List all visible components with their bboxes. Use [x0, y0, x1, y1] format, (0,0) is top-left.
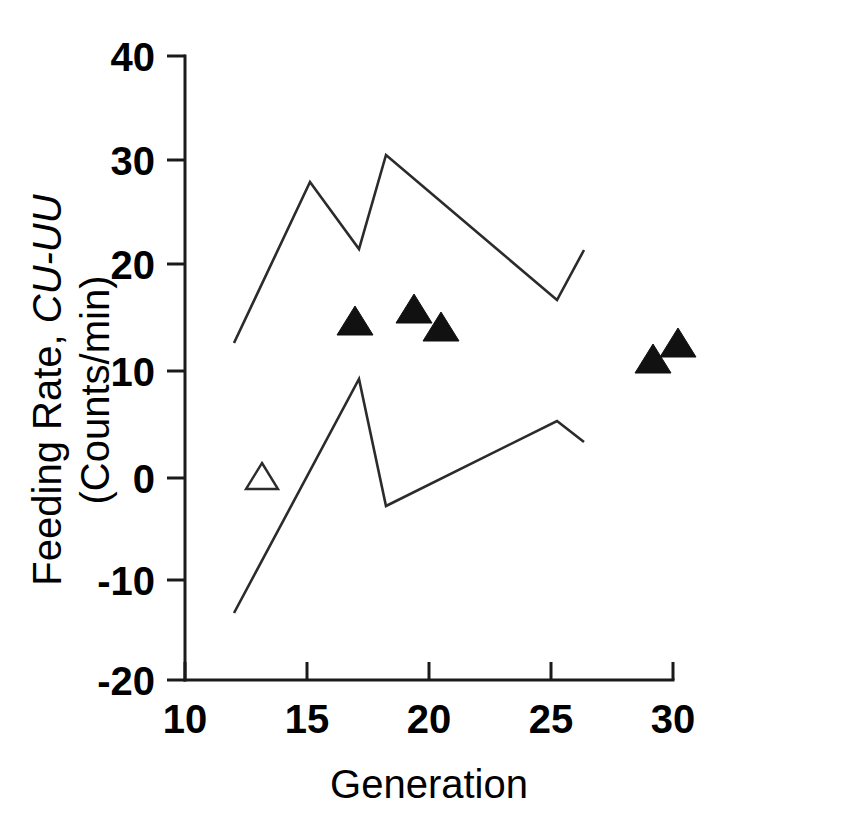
x-axis-tick-labels: 10 15 20 25 30: [163, 697, 696, 741]
x-tick-label-20: 20: [407, 697, 452, 741]
chart-canvas: 40 30 20 10 0 -10 -20 10 15 20 25 30: [0, 0, 852, 815]
marker-filled-triangle-5: [660, 328, 696, 357]
y-axis-ticks: [167, 56, 185, 680]
figure-container: 40 30 20 10 0 -10 -20 10 15 20 25 30: [0, 0, 852, 815]
marker-open-triangle-baseline: [246, 463, 278, 489]
marker-filled-triangle-1: [337, 306, 373, 335]
y-axis-title-line2: (Counts/min): [73, 276, 117, 505]
x-tick-label-10: 10: [163, 697, 208, 741]
y-tick-label--10: -10: [97, 559, 155, 603]
x-axis-title: Generation: [330, 762, 528, 806]
y-tick-label-40: 40: [111, 35, 156, 79]
y-tick-label-10: 10: [111, 350, 156, 394]
axis-titles: Generation Feeding Rate, CU-UU (Counts/m…: [25, 193, 528, 806]
x-tick-label-15: 15: [285, 697, 330, 741]
y-tick-label-0: 0: [133, 457, 155, 501]
y-tick-label-30: 30: [111, 139, 156, 183]
y-axis-title-italic: CU-UU: [25, 193, 69, 323]
y-tick-label-20: 20: [111, 243, 156, 287]
envelope-lines: [234, 155, 584, 613]
y-axis-title-line1: Feeding Rate, CU-UU: [25, 193, 69, 585]
y-tick-label--20: -20: [97, 659, 155, 703]
x-tick-label-30: 30: [651, 697, 696, 741]
x-tick-label-25: 25: [529, 697, 574, 741]
marker-filled-triangle-2: [396, 294, 432, 323]
x-axis-ticks: [185, 662, 673, 680]
lower-envelope-line: [234, 379, 584, 613]
axes-spines: [185, 56, 673, 680]
data-markers: [246, 294, 696, 489]
y-axis-title-plain: Feeding Rate,: [25, 323, 69, 585]
